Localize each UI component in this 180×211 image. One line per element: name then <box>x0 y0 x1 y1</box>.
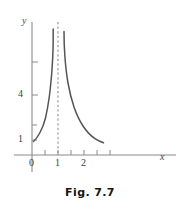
figure-container: y x 0 1 2 1 4 Fig. 7.7 <box>0 0 180 211</box>
x-axis-ticks <box>45 150 110 155</box>
y-axis-label: y <box>22 15 26 26</box>
curve-right-branch <box>64 32 104 143</box>
plot-canvas <box>0 0 180 211</box>
x-axis-label: x <box>160 151 164 162</box>
y-axis-ticks <box>32 62 38 140</box>
y-tick-label-1: 1 <box>18 133 23 144</box>
x-tick-label-1: 1 <box>55 157 60 168</box>
x-tick-label-0: 0 <box>29 157 34 168</box>
figure-caption: Fig. 7.7 <box>0 186 180 199</box>
x-tick-label-2: 2 <box>81 157 86 168</box>
y-tick-label-4: 4 <box>18 88 23 99</box>
